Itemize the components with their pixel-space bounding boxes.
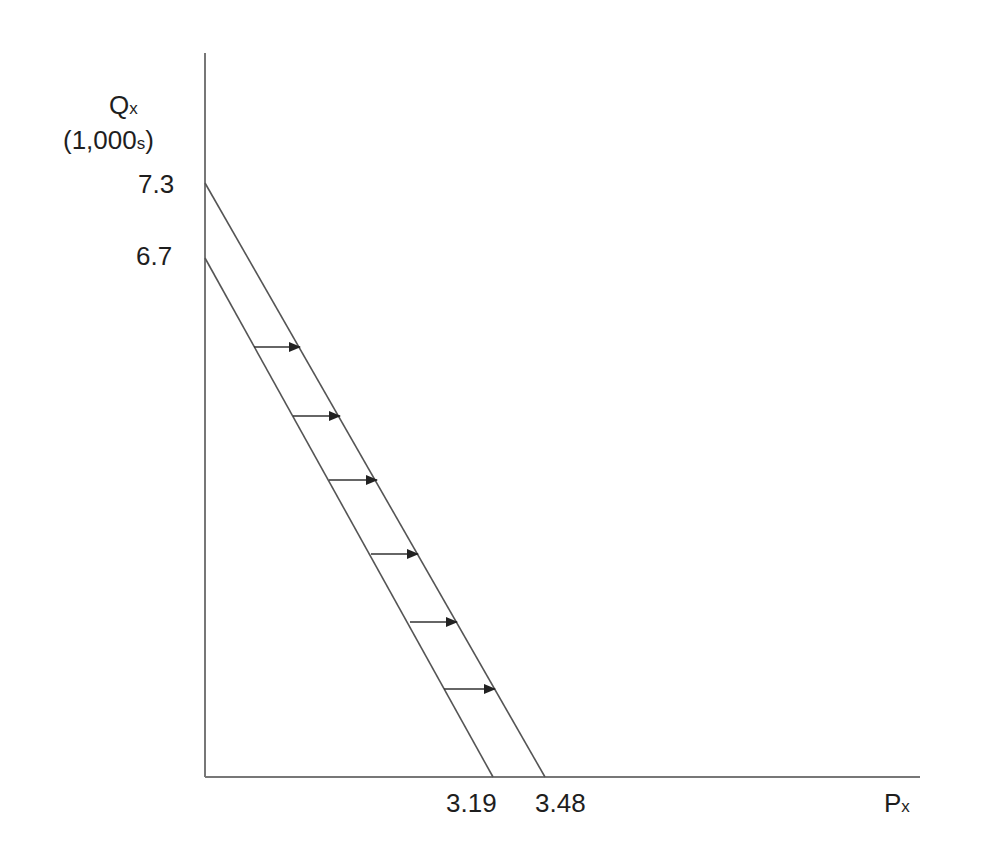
x-axis-label-main: P xyxy=(884,788,901,818)
y-axis-label-sub: x xyxy=(129,99,138,118)
shift-arrows xyxy=(254,347,495,689)
original-demand-line xyxy=(205,258,493,777)
y-tick-6-7: 6.7 xyxy=(136,243,172,269)
y-axis-label: Qx xyxy=(109,92,138,118)
x-tick-3-48: 3.48 xyxy=(535,790,586,816)
y-axis-label-main: Q xyxy=(109,90,129,120)
y-axis-units: (1,000s) xyxy=(63,127,154,153)
x-tick-3-19: 3.19 xyxy=(446,790,497,816)
x-axis-label-sub: x xyxy=(901,797,910,816)
x-axis-label: Px xyxy=(884,790,910,816)
y-tick-7-3: 7.3 xyxy=(138,171,174,197)
